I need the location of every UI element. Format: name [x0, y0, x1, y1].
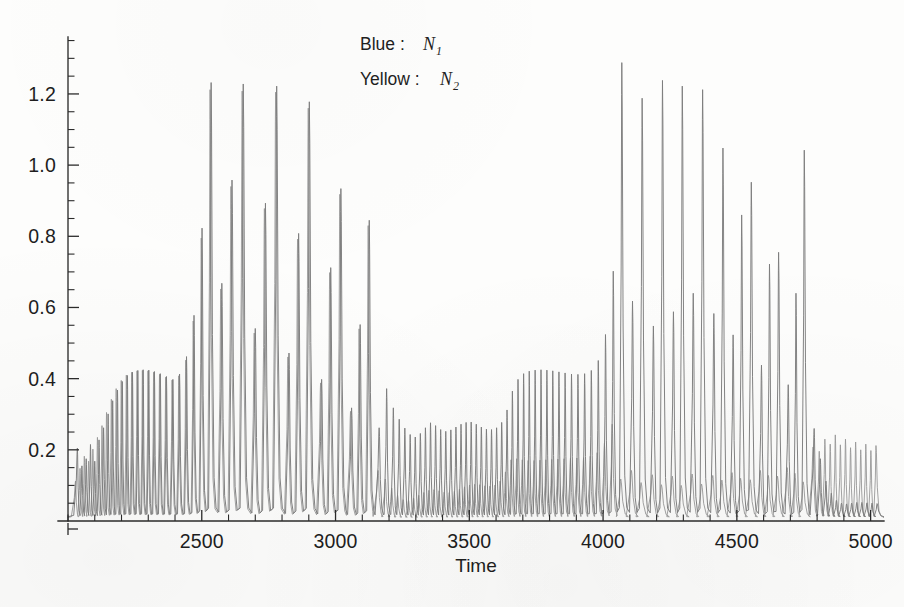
- x-tick-label: 2500: [180, 530, 224, 552]
- y-tick-label: 0.2: [28, 439, 56, 461]
- legend-label-n1: Blue :: [360, 34, 405, 54]
- x-tick-label: 3500: [447, 530, 491, 552]
- y-tick-label: 0.8: [28, 225, 56, 247]
- legend-subscript-n2: 2: [453, 79, 459, 93]
- series-layer: [68, 63, 884, 518]
- y-axis-tick-labels: 0.20.40.60.81.01.2: [28, 83, 56, 461]
- time-series-chart: 0.20.40.60.81.01.2 250030003500400045005…: [0, 0, 904, 607]
- legend-entry-n2: Yellow : N 2: [360, 69, 459, 93]
- legend-subscript-n1: 1: [436, 44, 442, 58]
- x-tick-label: 4000: [581, 530, 625, 552]
- legend-variable-n2: N: [439, 69, 453, 89]
- y-tick-label: 0.4: [28, 368, 56, 390]
- legend-variable-n1: N: [422, 34, 436, 54]
- legend-label-n2: Yellow :: [360, 69, 420, 89]
- legend: Blue : N 1 Yellow : N 2: [360, 34, 459, 93]
- x-tick-label: 4500: [715, 530, 759, 552]
- x-tick-label: 5000: [849, 530, 893, 552]
- x-axis-tick-labels: 250030003500400045005000: [180, 530, 893, 552]
- x-tick-label: 3000: [313, 530, 357, 552]
- legend-entry-n1: Blue : N 1: [360, 34, 442, 58]
- y-axis-ticks: [68, 41, 79, 504]
- y-tick-label: 1.2: [28, 83, 56, 105]
- y-tick-label: 1.0: [28, 154, 56, 176]
- series-line-n1: [68, 63, 884, 517]
- y-tick-label: 0.6: [28, 296, 56, 318]
- x-axis-title: Time: [455, 555, 497, 576]
- figure-canvas: 0.20.40.60.81.01.2 250030003500400045005…: [0, 0, 904, 607]
